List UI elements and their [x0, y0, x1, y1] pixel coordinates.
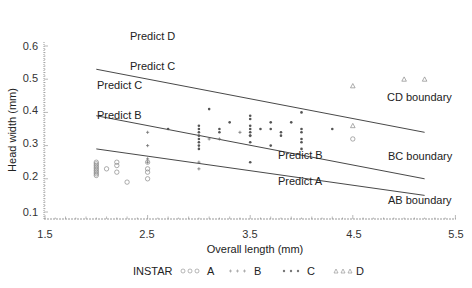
annotation-ab-boundary: AB boundary: [388, 194, 452, 206]
annotation-predict-b: Predict B: [278, 149, 323, 161]
legend-item-a: A: [181, 265, 215, 277]
y-tick-label: 0.6: [23, 40, 38, 52]
legend: INSTAR A B C: [133, 265, 364, 277]
annotation-bc-boundary: BC boundary: [388, 150, 453, 162]
y-axis: [44, 42, 48, 219]
star-marker-icon: [283, 270, 299, 272]
svg-text:B: B: [254, 265, 261, 277]
y-tick-label: 0.1: [23, 206, 38, 218]
x-axis-title: Overall length (mm): [207, 243, 304, 255]
plus-marker-icon: [229, 270, 246, 273]
boundary-lines: [96, 69, 424, 195]
annotation-predict-a: Predict A: [278, 175, 323, 187]
annotation-predict-c: Predict C: [97, 79, 142, 91]
circle-marker-icon: [181, 269, 199, 273]
y-tick-label: 0.2: [23, 170, 38, 182]
scatter-chart: 0.6 0.5 0.4 0.3 0.2 0.1 1.5 2.5 3.5 4.5 …: [0, 0, 472, 288]
y-tick-label: 0.4: [23, 104, 38, 116]
svg-text:D: D: [356, 265, 364, 277]
x-tick-label: 2.5: [139, 228, 154, 240]
legend-item-d: D: [334, 265, 364, 277]
data-points: [94, 77, 427, 184]
annotation-predict-b: Predict B: [97, 109, 142, 121]
x-tick-label: 4.5: [346, 228, 361, 240]
x-tick-label: 5.5: [448, 228, 463, 240]
svg-text:C: C: [307, 265, 315, 277]
y-tick-label: 0.3: [23, 137, 38, 149]
x-tick-label: 1.5: [37, 228, 52, 240]
legend-item-b: B: [229, 265, 261, 277]
x-tick-label: 3.5: [242, 228, 257, 240]
annotation-predict-d: Predict D: [130, 30, 175, 42]
annotation-cd-boundary: CD boundary: [387, 91, 452, 103]
svg-text:A: A: [207, 265, 215, 277]
y-tick-label: 0.5: [23, 72, 38, 84]
legend-item-c: C: [283, 265, 315, 277]
annotation-predict-c: Predict C: [130, 60, 175, 72]
legend-title: INSTAR: [133, 265, 173, 277]
x-axis: [44, 215, 456, 219]
y-axis-title: Head width (mm): [6, 88, 18, 172]
triangle-marker-icon: [334, 269, 352, 273]
